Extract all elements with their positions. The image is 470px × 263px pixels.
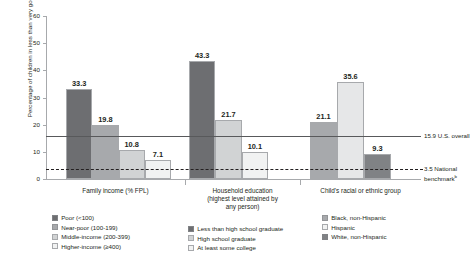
bar (92, 125, 118, 179)
bar-value-label: 33.3 (60, 79, 98, 88)
legend-item[interactable]: Less than high school graduate (188, 225, 283, 232)
legend-item[interactable]: Poor (<100) (52, 214, 130, 221)
y-axis-tick-label: 60 (20, 12, 40, 19)
legend-swatch (188, 245, 194, 251)
reference-line-us-overall (46, 136, 421, 137)
plot-area: 33.319.810.87.143.321.710.121.135.69.3 (46, 16, 421, 179)
legend-item[interactable]: High school graduate (188, 235, 283, 242)
group-label-line: (highest level attained by (185, 195, 300, 203)
y-axis-tick-label: 0 (20, 175, 40, 182)
legend-swatch (52, 243, 58, 249)
bar-value-label: 19.8 (86, 115, 124, 124)
legend-swatch (322, 234, 328, 240)
legend-family-income: Poor (<100)Near-poor (100-199)Middle-inc… (52, 214, 130, 252)
y-axis-tick-label: 20 (20, 121, 40, 128)
bar (337, 82, 364, 179)
legend-item-label: Middle-income (200-399) (61, 233, 130, 240)
chart-figure: Percentage of children in less than very… (0, 0, 470, 263)
legend-item-label: High school graduate (197, 235, 255, 242)
group-label: Family income (% FPL) (46, 187, 185, 195)
group-label: Child's racial or ethnic group (300, 187, 421, 195)
legend-swatch (52, 215, 58, 221)
legend-item[interactable]: Higher-income (≥400) (52, 243, 130, 250)
bar-value-label: 21.7 (209, 110, 247, 119)
legend-item-label: Poor (<100) (61, 214, 94, 221)
legend-household-education: Less than high school graduateHigh schoo… (188, 225, 283, 254)
legend-item[interactable]: Hispanic (322, 224, 387, 231)
reference-line-label: 15.9 U.S. overall (424, 132, 470, 139)
legend-swatch (188, 226, 194, 232)
legend-swatch (188, 235, 194, 241)
legend-item[interactable]: Black, non-Hispanic (322, 214, 387, 221)
legend-item-label: At least some college (197, 244, 256, 251)
bar-value-label: 9.3 (358, 144, 397, 153)
group-label-line: Family income (% FPL) (46, 187, 185, 195)
bar-value-label: 10.8 (113, 140, 151, 149)
bar (66, 89, 92, 179)
y-axis-tick-label: 40 (20, 66, 40, 73)
legend-item[interactable]: Near-poor (100-199) (52, 224, 130, 231)
legend-swatch (52, 234, 58, 240)
legend-swatch (322, 224, 328, 230)
legend-item[interactable]: Middle-income (200-399) (52, 233, 130, 240)
legend-item-label: Black, non-Hispanic (331, 214, 386, 221)
legend-item[interactable]: White, non-Hispanic (322, 233, 387, 240)
bar-value-label: 43.3 (183, 51, 221, 60)
reference-line-label: 3.5 Nationalbenchmarkb (424, 165, 457, 182)
legend-race-ethnicity: Black, non-HispanicHispanicWhite, non-Hi… (322, 214, 387, 243)
legend-item-label: White, non-Hispanic (331, 233, 386, 240)
x-axis-line (46, 179, 421, 180)
reference-line-national-benchmark (46, 169, 423, 170)
bar-value-label: 35.6 (331, 72, 370, 81)
group-separator (185, 180, 186, 185)
group-separator (300, 180, 301, 185)
bar (242, 152, 268, 179)
y-axis-tick-label: 30 (20, 94, 40, 101)
bar-value-label: 10.1 (236, 142, 274, 151)
legend-item-label: Higher-income (≥400) (61, 243, 121, 250)
bar-value-label: 7.1 (139, 150, 177, 159)
y-axis-tick-mark (43, 179, 46, 180)
group-label-line: any person) (185, 203, 300, 211)
legend-swatch (52, 224, 58, 230)
legend-item-label: Near-poor (100-199) (61, 224, 117, 231)
legend-swatch (322, 215, 328, 221)
legend-item[interactable]: At least some college (188, 244, 283, 251)
group-label-line: Child's racial or ethnic group (300, 187, 421, 195)
bar (364, 154, 391, 179)
legend-item-label: Less than high school graduate (197, 225, 283, 232)
y-axis-tick-label: 10 (20, 148, 40, 155)
legend-item-label: Hispanic (331, 224, 355, 231)
bar (189, 61, 215, 179)
y-axis-tick-label: 50 (20, 39, 40, 46)
group-label: Household education(highest level attain… (185, 187, 300, 210)
group-label-line: Household education (185, 187, 300, 195)
